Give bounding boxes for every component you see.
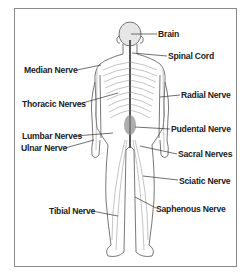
label-spinal-cord: Spinal Cord: [168, 51, 214, 61]
label-pudental-nerve: Pudental Nerve: [171, 124, 231, 134]
label-sacral-nerves: Sacral Nerves: [178, 149, 232, 159]
label-ulnar-nerve: Ulnar Nerve: [21, 143, 67, 153]
label-lumbar-nerves: Lumbar Nerves: [22, 131, 82, 141]
label-tibial-nerve: Tibial Nerve: [49, 206, 95, 216]
leader-lines: [65, 34, 180, 216]
label-median-nerve: Median Nerve: [24, 65, 77, 75]
label-radial-nerve: Radial Nerve: [181, 90, 231, 100]
label-thoracic-nerves: Thoracic Nerves: [22, 99, 86, 109]
label-saphenous-nerve: Saphenous Nerve: [156, 204, 226, 214]
label-sciatic-nerve: Sciatic Nerve: [179, 176, 230, 186]
label-brain: Brain: [158, 29, 179, 39]
